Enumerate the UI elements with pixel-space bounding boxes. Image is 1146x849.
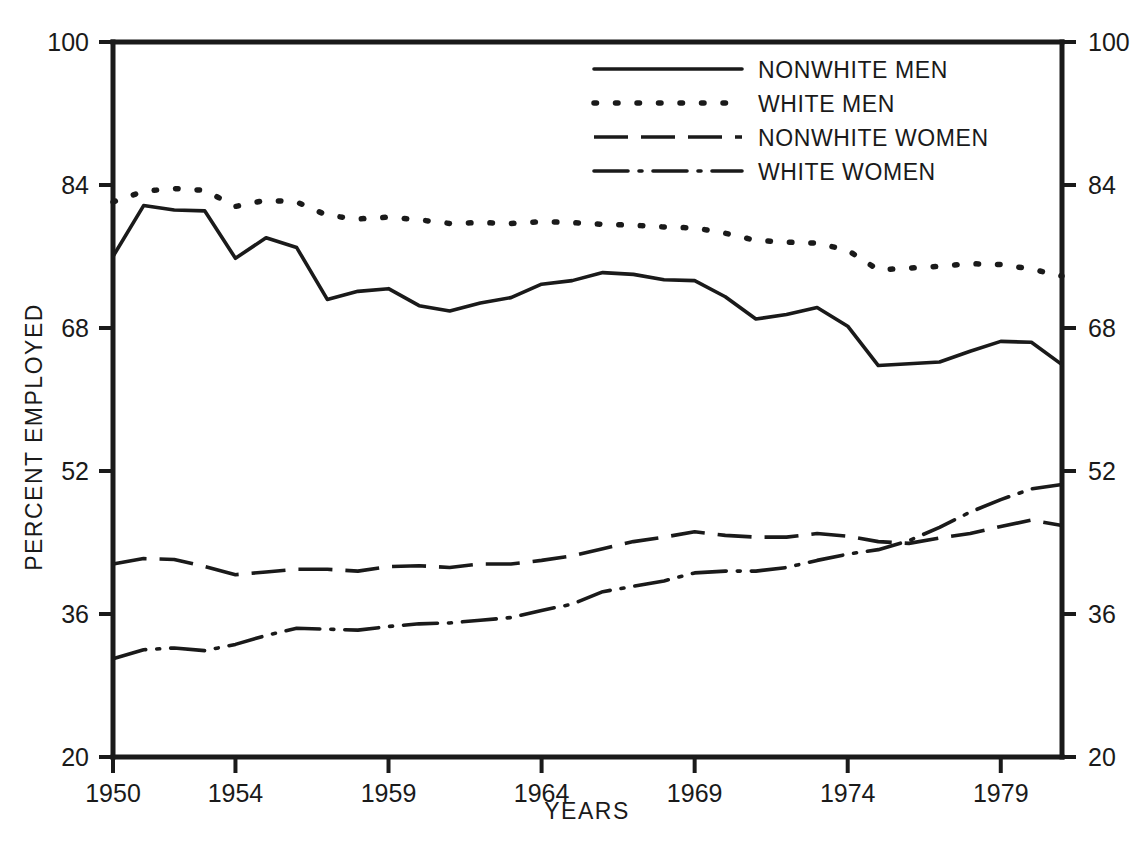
legend-label: NONWHITE MEN bbox=[758, 57, 948, 83]
y-tick-label-left: 100 bbox=[47, 28, 89, 56]
y-tick-label-left: 68 bbox=[61, 314, 89, 342]
x-tick-label: 1979 bbox=[973, 779, 1029, 807]
y-tick-label-right: 20 bbox=[1088, 743, 1116, 771]
x-tick-label: 1954 bbox=[208, 779, 264, 807]
x-tick-label: 1969 bbox=[667, 779, 723, 807]
employment-line-chart: 2020363652526868848410010019501954195919… bbox=[0, 0, 1146, 849]
y-tick-label-right: 100 bbox=[1088, 28, 1130, 56]
y-tick-label-left: 20 bbox=[61, 743, 89, 771]
y-tick-label-left: 36 bbox=[61, 600, 89, 628]
legend-label: WHITE WOMEN bbox=[758, 159, 936, 185]
x-axis-title: YEARS bbox=[544, 798, 629, 824]
y-tick-label-left: 52 bbox=[61, 457, 89, 485]
x-tick-label: 1974 bbox=[820, 779, 876, 807]
y-axis-title: PERCENT EMPLOYED bbox=[21, 303, 47, 571]
y-tick-label-left: 84 bbox=[61, 171, 89, 199]
y-tick-label-right: 36 bbox=[1088, 600, 1116, 628]
x-tick-label: 1950 bbox=[85, 779, 141, 807]
y-tick-label-right: 52 bbox=[1088, 457, 1116, 485]
y-tick-label-right: 68 bbox=[1088, 314, 1116, 342]
legend-label: NONWHITE WOMEN bbox=[758, 125, 989, 151]
y-tick-label-right: 84 bbox=[1088, 171, 1116, 199]
x-tick-label: 1959 bbox=[361, 779, 417, 807]
legend-label: WHITE MEN bbox=[758, 91, 895, 117]
